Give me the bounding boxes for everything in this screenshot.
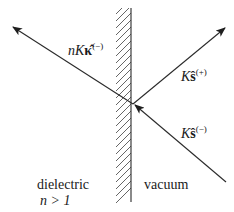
vacuum-region-label: vacuum	[144, 178, 188, 192]
refracted-ray-label: nKκ̂(−)	[68, 44, 103, 58]
reflected-ray-label: Kŝ(+)	[181, 70, 207, 84]
incident-ray-label: Kŝ(−)	[181, 127, 207, 141]
incident-ray-arrow	[135, 105, 226, 182]
interface-hatching	[116, 8, 131, 203]
dielectric-region-label: dielectric	[37, 178, 89, 192]
refracted-ray-arrow	[13, 27, 133, 104]
refraction-diagram	[0, 0, 234, 212]
dielectric-condition-label: n > 1	[40, 194, 70, 208]
reflected-ray-arrow	[133, 28, 225, 104]
